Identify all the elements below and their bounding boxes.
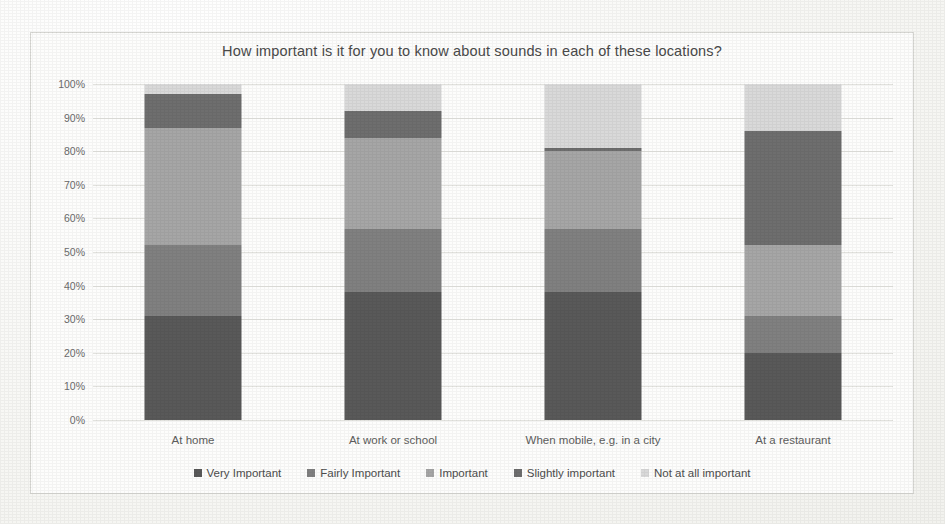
x-axis-tick-label: At a restaurant xyxy=(755,434,830,446)
bar-segment[interactable] xyxy=(145,128,242,246)
legend-item[interactable]: Slightly important xyxy=(514,467,615,479)
bar-segment[interactable] xyxy=(545,84,642,148)
legend-item[interactable]: Very Important xyxy=(194,467,282,479)
bar-segment[interactable] xyxy=(745,316,842,353)
chart-frame: How important is it for you to know abou… xyxy=(30,32,914,494)
y-axis-tick-label: 20% xyxy=(64,347,85,359)
bar-segment[interactable] xyxy=(745,131,842,245)
legend-label: Important xyxy=(439,467,488,479)
y-axis-tick-label: 90% xyxy=(64,112,85,124)
bar-segment[interactable] xyxy=(345,111,442,138)
bar-segment[interactable] xyxy=(145,94,242,128)
legend-label: Very Important xyxy=(207,467,282,479)
bar-slot: At a restaurant xyxy=(693,84,893,420)
bar-segment[interactable] xyxy=(545,229,642,293)
y-axis-tick-label: 80% xyxy=(64,145,85,157)
legend-swatch-icon xyxy=(426,469,434,477)
stacked-bar[interactable] xyxy=(745,84,842,420)
bar-segment[interactable] xyxy=(345,138,442,229)
legend-swatch-icon xyxy=(514,469,522,477)
y-axis-tick-label: 50% xyxy=(64,246,85,258)
legend-label: Slightly important xyxy=(527,467,615,479)
bar-segment[interactable] xyxy=(345,292,442,420)
bar-slot: When mobile, e.g. in a city xyxy=(493,84,693,420)
bar-segment[interactable] xyxy=(745,84,842,131)
legend-item[interactable]: Not at all important xyxy=(641,467,751,479)
y-axis-tick-label: 70% xyxy=(64,179,85,191)
bar-segment[interactable] xyxy=(145,245,242,316)
chart-legend: Very ImportantFairly ImportantImportantS… xyxy=(31,467,913,479)
bar-slot: At work or school xyxy=(293,84,493,420)
bar-segment[interactable] xyxy=(145,316,242,420)
bar-segment[interactable] xyxy=(745,353,842,420)
bar-segment[interactable] xyxy=(545,292,642,420)
legend-swatch-icon xyxy=(307,469,315,477)
legend-item[interactable]: Fairly Important xyxy=(307,467,400,479)
stacked-bar[interactable] xyxy=(145,84,242,420)
y-axis-tick-label: 0% xyxy=(70,414,85,426)
legend-label: Not at all important xyxy=(654,467,751,479)
legend-label: Fairly Important xyxy=(320,467,400,479)
bar-segment[interactable] xyxy=(545,151,642,228)
bar-slot: At home xyxy=(93,84,293,420)
bar-segment[interactable] xyxy=(145,84,242,94)
bar-segment[interactable] xyxy=(745,245,842,316)
y-axis-tick-label: 60% xyxy=(64,212,85,224)
stacked-bar[interactable] xyxy=(345,84,442,420)
chart-title: How important is it for you to know abou… xyxy=(31,43,913,59)
x-axis-tick-label: At work or school xyxy=(349,434,437,446)
bar-segment[interactable] xyxy=(345,229,442,293)
y-axis-tick-label: 40% xyxy=(64,280,85,292)
y-axis-tick-label: 100% xyxy=(58,78,85,90)
y-axis-tick-label: 30% xyxy=(64,313,85,325)
gridline xyxy=(93,420,893,421)
x-axis-tick-label: When mobile, e.g. in a city xyxy=(526,434,661,446)
legend-item[interactable]: Important xyxy=(426,467,488,479)
plot-area: 0%10%20%30%40%50%60%70%80%90%100% At hom… xyxy=(93,84,893,420)
legend-swatch-icon xyxy=(194,469,202,477)
stacked-bar[interactable] xyxy=(545,84,642,420)
bar-group: At homeAt work or schoolWhen mobile, e.g… xyxy=(93,84,893,420)
x-axis-tick-label: At home xyxy=(172,434,215,446)
bar-segment[interactable] xyxy=(345,84,442,111)
y-axis-tick-label: 10% xyxy=(64,380,85,392)
legend-swatch-icon xyxy=(641,469,649,477)
